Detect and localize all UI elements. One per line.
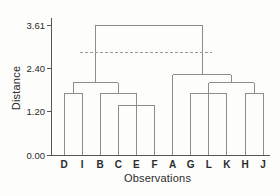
leaf-label: H — [241, 159, 248, 170]
leaf-label: J — [260, 159, 266, 170]
leaf-label: C — [115, 159, 122, 170]
leaf-label: G — [187, 159, 195, 170]
leaf-label: A — [169, 159, 176, 170]
leaf-label: K — [223, 159, 231, 170]
leaf-label: F — [151, 159, 157, 170]
leaf-label: I — [81, 159, 84, 170]
leaf-label: L — [206, 159, 212, 170]
leaf-label: D — [60, 159, 67, 170]
dendrogram-figure: Distance 0.001.202.403.61DIBCEFAGLKHJ Ob… — [0, 0, 280, 196]
y-tick-label: 3.61 — [27, 20, 46, 31]
x-axis-title: Observations — [51, 172, 264, 184]
y-tick-label: 1.20 — [27, 106, 46, 117]
dendrogram-canvas: 0.001.202.403.61DIBCEFAGLKHJ — [0, 0, 280, 196]
leaf-label: B — [97, 159, 104, 170]
y-tick-label: 0.00 — [27, 150, 46, 161]
leaf-label: E — [133, 159, 140, 170]
y-tick-label: 2.40 — [27, 63, 46, 74]
